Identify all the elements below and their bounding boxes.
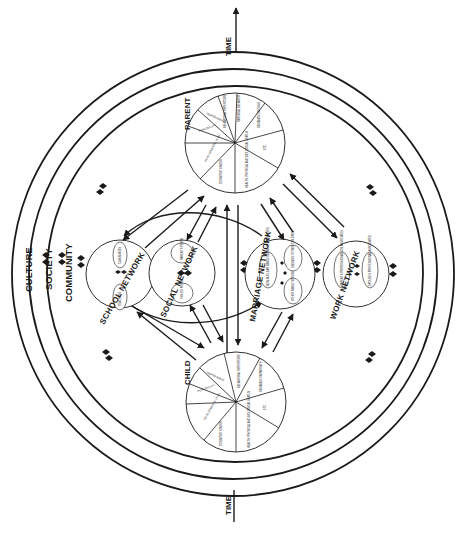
ecological-model-diagram: TIME TIME CULTURE SOCIETY COMMUNITY (0, 0, 461, 548)
social-member-label: PARENT'S PEERS (180, 238, 184, 260)
parent-segment-label: PARENTAL BEHAVIOR (237, 95, 241, 122)
double-arrow-icon (366, 184, 377, 196)
community-label: COMMUNITY (63, 243, 74, 302)
arrow-marriage-to-child (262, 312, 282, 348)
time-label-top: TIME (224, 36, 233, 56)
work-network-node: PARENT'S PROFESSIONAL JOB ASSOCIATES SPO… (323, 230, 389, 321)
parent-segment-label: ETC. (263, 144, 267, 150)
arrow-child-to-social (190, 305, 211, 343)
child-label: CHILD (183, 360, 192, 385)
double-arrow-icon (96, 183, 107, 195)
arrow-parent-to-social (187, 205, 206, 240)
marriage-member-label: OTHER FAMILY SPOUSE (291, 270, 295, 301)
arrow-social-to-child (203, 305, 223, 342)
diagram-canvas: TIME TIME CULTURE SOCIETY COMMUNITY (0, 0, 461, 548)
arrow-parent-to-school (123, 190, 188, 240)
culture-label: CULTURE (23, 247, 34, 292)
marriage-member-label: SIBLINGS / OTHER CHILDREN (291, 231, 295, 268)
work-member-label: SPOUSE'S PROFESSIONAL ASSOCIATES (368, 235, 372, 286)
child-node: CHILD COGNITIVE STATUS DEVELOPMENTAL LEV… (183, 352, 286, 452)
child-segment-label: BEHAVIORAL REPERTOIRE (237, 354, 241, 388)
double-arrow-icon (77, 255, 85, 268)
double-arrow-icon (389, 263, 397, 277)
double-arrow-icon (102, 349, 113, 361)
arrow-school-to-parent (145, 196, 204, 248)
child-segment-label: ETC. (263, 404, 267, 410)
arrow-child-to-marriage (273, 314, 293, 352)
social-network-node: CHILD'S PEERS PARENT'S PEERS SOCIAL NETW… (149, 238, 215, 319)
school-member-label: CLASSMATES (118, 246, 122, 264)
arrow-work-to-parent (290, 174, 344, 227)
parent-segment-label: HEALTH, PHYSICAL AND BIOLOGICAL STATUS (245, 131, 249, 188)
parent-segment-label: BEHAVIORAL REPERTOIRE (223, 94, 227, 128)
double-arrow-icon (365, 351, 376, 363)
child-segment-label: HEALTH, PHYSICAL AND BIOLOGICAL STATUS (247, 391, 251, 448)
parent-node: PARENT COGNITIVE STATUS DEVELOPMENTAL LE… (183, 93, 285, 193)
child-segment-label: COGNITIVE STATUS (219, 421, 223, 446)
child-segment-label: DEMANDS ON PARENTS (259, 361, 263, 392)
parent-segment-label: COGNITIVE STATUS (219, 159, 223, 184)
marriage-network-node: NON-NUCLEAR FAMILY MEMBERS / RELATIVES O… (245, 227, 315, 322)
time-label-bottom: TIME (224, 495, 233, 515)
arrow-marriage-to-parent (270, 198, 293, 232)
parent-label: PARENT (183, 98, 192, 130)
parent-segment-label: DEMANDS ON CHILD (257, 102, 261, 128)
curved-arrow-marriage-to-school (124, 213, 262, 236)
arrow-social-to-parent (198, 207, 216, 242)
